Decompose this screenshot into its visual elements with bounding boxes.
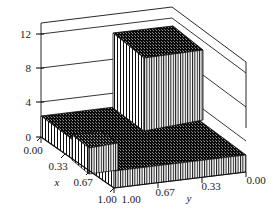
surface-plot-figure: 12 8 4 0 bbox=[0, 0, 274, 210]
z-tick-label-0: 0 bbox=[26, 131, 32, 143]
y-tick-label-0: 1.00 bbox=[121, 193, 141, 205]
y-axis-title: y bbox=[186, 192, 192, 204]
x-axis-title: x bbox=[54, 176, 60, 188]
y-tick-label-2: 0.33 bbox=[201, 180, 221, 192]
x-tick-label-3: 1.00 bbox=[97, 193, 117, 205]
z-tick-label-8: 8 bbox=[26, 62, 32, 74]
x-tick-label-2: 0.67 bbox=[73, 176, 93, 188]
x-tick-label-1: 0.33 bbox=[48, 160, 68, 172]
z-tick-label-12: 12 bbox=[20, 28, 31, 40]
y-tick-label-3: 0.00 bbox=[246, 174, 266, 186]
plot-canvas: 12 8 4 0 bbox=[0, 0, 274, 210]
y-tick-label-1: 0.67 bbox=[155, 186, 175, 198]
x-tick-label-0: 0.00 bbox=[23, 144, 43, 156]
z-tick-label-4: 4 bbox=[26, 96, 32, 108]
tall-central-block bbox=[113, 26, 203, 131]
